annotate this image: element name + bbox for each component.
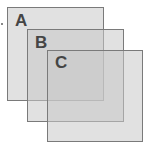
label-b: B bbox=[35, 34, 47, 51]
scan-artifact-dot bbox=[1, 23, 3, 25]
label-c: C bbox=[55, 54, 67, 71]
label-a: A bbox=[15, 12, 27, 29]
